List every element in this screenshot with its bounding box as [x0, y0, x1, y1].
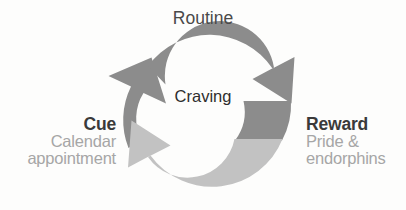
- node-sublabel-reward-line2: endorphins: [306, 150, 386, 167]
- habit-loop-diagram: Routine Craving Cue Calendar appointment…: [0, 0, 406, 210]
- node-group-reward: Reward Pride & endorphins: [306, 115, 386, 168]
- node-label-craving: Craving: [0, 88, 406, 105]
- node-group-cue: Cue Calendar appointment: [27, 115, 116, 168]
- routine-to-reward-arrow-tail: [235, 101, 291, 141]
- node-sublabel-cue-line1: Calendar: [27, 133, 116, 150]
- node-label-cue: Cue: [27, 115, 116, 133]
- node-label-reward: Reward: [306, 115, 386, 133]
- node-sublabel-cue-line2: appointment: [27, 150, 116, 167]
- node-label-routine: Routine: [0, 9, 406, 27]
- node-sublabel-reward-line1: Pride &: [306, 133, 386, 150]
